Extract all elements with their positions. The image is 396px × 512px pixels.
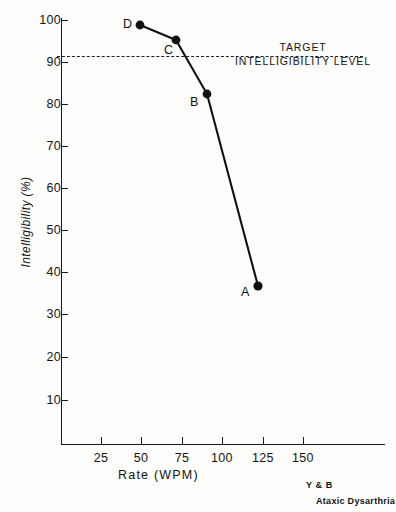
data-point-b xyxy=(203,90,212,99)
series-line-ataxic xyxy=(140,25,258,286)
data-point-d xyxy=(136,21,145,30)
data-point-label-b: B xyxy=(190,96,199,109)
data-point-a xyxy=(253,281,262,290)
annotation-author: Y & B xyxy=(306,480,333,490)
series-plot xyxy=(0,0,396,512)
data-point-label-d: D xyxy=(123,18,132,31)
annotation-subject: Ataxic Dysarthria xyxy=(316,496,395,506)
data-point-label-a: A xyxy=(241,286,250,299)
data-point-label-c: C xyxy=(164,44,173,57)
chart-figure: 100 90 80 70 60 50 40 30 20 10 25 50 75 … xyxy=(0,0,396,512)
